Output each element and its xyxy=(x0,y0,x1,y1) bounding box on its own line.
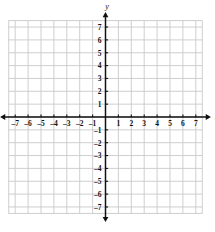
x-tick-label: 3 xyxy=(142,119,146,128)
x-tick-label: –2 xyxy=(75,119,84,128)
y-tick-label: 4 xyxy=(98,61,102,70)
x-tick-labels: –7–6–5–4–3–2–11234567 xyxy=(10,119,197,128)
coordinate-grid-svg: –7–6–5–4–3–2–11234567 7654321–1–2–3–4–5–… xyxy=(0,0,215,232)
x-tick-label: 6 xyxy=(181,119,185,128)
x-tick-label: –3 xyxy=(62,119,71,128)
y-tick-label: –6 xyxy=(93,190,102,199)
y-tick-label: –2 xyxy=(93,139,102,148)
x-tick-label: 4 xyxy=(155,119,159,128)
y-tick-label: 5 xyxy=(98,49,102,58)
y-tick-label: –1 xyxy=(93,126,102,135)
y-tick-label: 7 xyxy=(98,23,102,32)
y-tick-label: 1 xyxy=(98,100,102,109)
y-tick-label: 2 xyxy=(98,87,102,96)
x-tick-label: –7 xyxy=(10,119,19,128)
y-tick-label: 6 xyxy=(98,36,102,45)
x-tick-label: –4 xyxy=(49,119,58,128)
y-tick-label: –5 xyxy=(93,177,102,186)
x-tick-label: 1 xyxy=(117,119,121,128)
y-tick-label: 3 xyxy=(98,74,102,83)
x-tick-label: 2 xyxy=(129,119,133,128)
y-tick-label: –7 xyxy=(93,203,102,212)
x-tick-label: –5 xyxy=(36,119,45,128)
y-tick-label: –3 xyxy=(93,151,102,160)
y-tick-label: –4 xyxy=(93,164,102,173)
x-axis-label: x xyxy=(214,113,215,122)
x-tick-label: 5 xyxy=(168,119,172,128)
x-tick-label: 7 xyxy=(194,119,198,128)
coordinate-plane-figure: –7–6–5–4–3–2–11234567 7654321–1–2–3–4–5–… xyxy=(0,0,215,232)
x-tick-label: –6 xyxy=(23,119,32,128)
axis-lines xyxy=(0,12,211,222)
y-axis-label: y xyxy=(104,2,109,11)
